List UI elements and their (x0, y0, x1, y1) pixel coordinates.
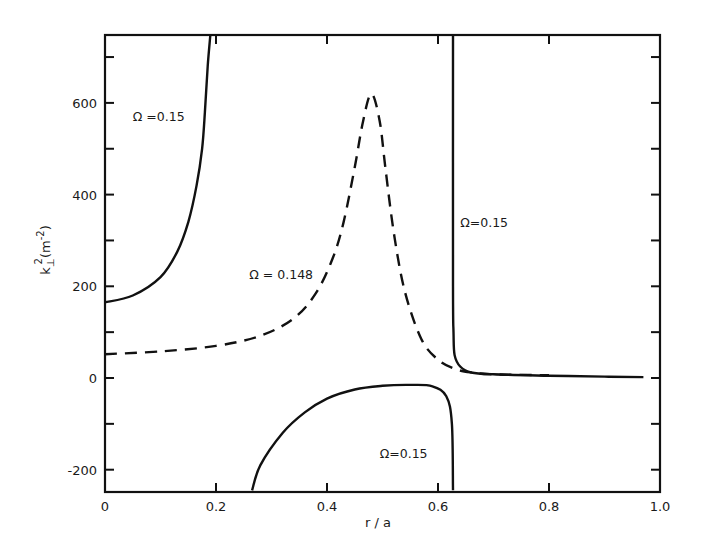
data-series (105, 34, 643, 490)
x-tick-label: 0.6 (428, 499, 449, 514)
y-axis-label: k⊥2(m-2) (33, 225, 56, 274)
series-annotation: Ω = 0.148 (249, 267, 313, 282)
y-label-close: ) (38, 225, 53, 230)
chart: 00.20.40.60.81.0 -2000200400600 Ω =0.15Ω… (0, 0, 706, 550)
series-annotation: Ω=0.15 (380, 446, 428, 461)
series-annotation: Ω=0.15 (460, 215, 508, 230)
y-label-sub: ⊥ (45, 258, 56, 267)
series-line-3 (252, 385, 453, 490)
plot-border (105, 35, 660, 492)
series-line-0 (105, 34, 210, 302)
x-tick-label: 0.8 (539, 499, 560, 514)
plot-frame (105, 35, 660, 492)
y-tick-label: 0 (89, 371, 97, 386)
x-tick-label: 1.0 (650, 499, 671, 514)
x-axis-label: r / a (365, 515, 391, 530)
series-annotation: Ω =0.15 (133, 109, 185, 124)
y-tick-label: -200 (67, 463, 97, 478)
x-axis-ticks: 00.20.40.60.81.0 (101, 35, 670, 514)
series-line-1 (105, 94, 549, 376)
x-tick-label: 0 (101, 499, 109, 514)
x-tick-label: 0.4 (317, 499, 338, 514)
y-tick-label: 400 (72, 188, 97, 203)
y-label-unit-sup: -2 (35, 230, 46, 240)
y-label-unit: (m (38, 240, 53, 258)
series-line-2 (453, 34, 643, 377)
y-tick-label: 200 (72, 279, 97, 294)
x-tick-label: 0.2 (206, 499, 227, 514)
y-tick-label: 600 (72, 96, 97, 111)
svg-text:k⊥2(m-2): k⊥2(m-2) (33, 225, 56, 274)
